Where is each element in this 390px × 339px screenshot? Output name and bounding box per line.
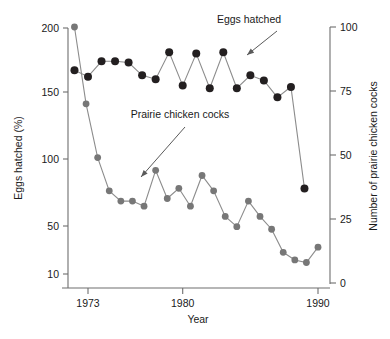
x-tick-label: 1973 [76, 297, 100, 309]
annotation-arrow-head [247, 49, 254, 55]
data-point [179, 82, 187, 90]
annotation-eggs-hatched: Eggs hatched [217, 13, 281, 25]
data-point [280, 249, 287, 256]
data-point [303, 259, 310, 266]
chart-container: 2001501005010 1007550250 197319801990 Eg… [0, 0, 390, 339]
data-point [71, 24, 78, 31]
data-point [83, 100, 90, 107]
series-eggs-hatched [70, 48, 308, 192]
annotation-arrow [141, 127, 185, 177]
data-point [233, 84, 241, 92]
x-tick-label: 1990 [306, 297, 330, 309]
data-point [152, 167, 159, 174]
annotation-arrows [141, 31, 277, 177]
data-point [273, 93, 281, 101]
data-point [287, 83, 295, 91]
data-point [111, 57, 119, 65]
right-axis-title: Number of prairie chicken cocks [367, 81, 379, 230]
x-axis-ticks [88, 288, 318, 294]
data-point [268, 226, 275, 233]
left-tick-label: 200 [41, 22, 59, 34]
data-point [315, 244, 322, 251]
data-point [141, 203, 148, 210]
right-tick-label: 100 [340, 21, 358, 33]
data-point [246, 71, 254, 79]
data-point [164, 195, 171, 202]
left-tick-label: 50 [47, 220, 59, 232]
left-tick-label: 150 [41, 86, 59, 98]
data-point [257, 213, 264, 220]
data-point [245, 198, 252, 205]
chart-svg: 2001501005010 1007550250 197319801990 Eg… [0, 0, 390, 339]
data-point [260, 76, 268, 84]
data-point [106, 187, 113, 194]
data-point [187, 203, 194, 210]
right-tick-label: 75 [340, 85, 352, 97]
right-axis: 1007550250 [330, 21, 358, 289]
right-tick-label: 25 [340, 213, 352, 225]
x-axis-ticklabels: 197319801990 [76, 297, 330, 309]
data-point [291, 257, 298, 264]
left-axis-ticks [63, 28, 68, 274]
x-axis-title: Year [187, 313, 209, 325]
data-point [138, 71, 146, 79]
left-axis-ticklabels: 2001501005010 [41, 22, 59, 280]
x-tick-label: 1980 [171, 297, 195, 309]
data-point [192, 50, 200, 58]
grey-data-points [71, 24, 321, 266]
data-point [84, 73, 92, 81]
data-point [300, 184, 308, 192]
data-point [165, 48, 173, 56]
bottom-axis: 197319801990 [62, 288, 330, 309]
right-axis-ticks [330, 27, 336, 283]
left-tick-label: 100 [41, 153, 59, 165]
data-point [175, 185, 182, 192]
data-point [98, 57, 106, 65]
left-axis-title: Eggs hatched (%) [12, 116, 24, 199]
data-point [222, 213, 229, 220]
right-axis-ticklabels: 1007550250 [340, 21, 358, 289]
series-prairie-chicken-cocks [71, 24, 321, 266]
data-point [219, 48, 227, 56]
data-point [233, 223, 240, 230]
data-point [70, 66, 78, 74]
left-axis: 2001501005010 [41, 22, 68, 288]
annotation-prairie-chicken-cocks: Prairie chicken cocks [131, 108, 230, 120]
data-point [152, 75, 160, 83]
data-point [210, 187, 217, 194]
right-tick-label: 0 [340, 277, 346, 289]
data-point [94, 154, 101, 161]
right-tick-label: 50 [340, 149, 352, 161]
left-tick-label: 10 [47, 268, 59, 280]
data-point [206, 84, 214, 92]
data-point [117, 198, 124, 205]
data-point [125, 59, 133, 67]
data-point [129, 198, 136, 205]
data-point [199, 172, 206, 179]
